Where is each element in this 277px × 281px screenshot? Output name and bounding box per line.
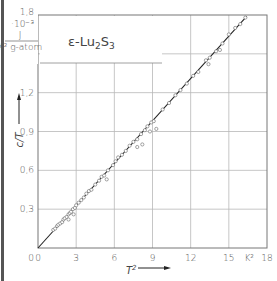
data-point [161, 108, 164, 111]
data-point [218, 48, 221, 51]
x-tick-label: 15 [223, 253, 234, 263]
data-point [132, 140, 135, 143]
data-point [239, 22, 242, 25]
chart-title: ε-Lu2S3 [68, 34, 115, 51]
data-point [85, 192, 88, 195]
y-axis-ticks: 00,30,60,91,2 [20, 88, 34, 263]
data-point [179, 88, 182, 91]
data-point [67, 218, 70, 221]
data-point [215, 50, 218, 53]
x-tick-label: 0 [35, 253, 41, 263]
x-tick-label: 12 [185, 253, 196, 263]
data-point [72, 213, 75, 216]
data-point [244, 16, 247, 19]
data-point [146, 125, 149, 128]
data-point [120, 153, 123, 156]
y-tick-label: 0,6 [20, 165, 34, 175]
data-point [105, 178, 108, 181]
data-point [80, 199, 83, 202]
data-point [208, 56, 211, 59]
x-axis-arrow-icon [164, 266, 171, 270]
data-point [141, 143, 144, 146]
data-point [111, 164, 114, 167]
data-point [174, 94, 177, 97]
data-point [128, 144, 131, 147]
x-tick-label: 9 [150, 253, 156, 263]
data-point [204, 59, 207, 62]
x-tick-label: K² [244, 253, 254, 263]
y-unit-numerator: J [19, 30, 22, 40]
data-point [155, 127, 158, 130]
data-point [136, 145, 139, 148]
x-tick-label: 18 [261, 253, 272, 263]
y-axis-label: c/T [14, 132, 25, 148]
data-point [139, 132, 142, 135]
data-point [77, 201, 80, 204]
data-point [148, 130, 151, 133]
data-point [227, 33, 230, 36]
data-point [94, 183, 97, 186]
data-point [136, 138, 139, 141]
data-point [185, 82, 188, 85]
x-tick-label: 6 [111, 253, 117, 263]
data-point [114, 160, 117, 163]
data-point [167, 101, 170, 104]
data-point [97, 179, 100, 182]
y-tick-label: 0,3 [20, 204, 34, 214]
y-unit-multiplier: ·10⁻³ [11, 19, 34, 29]
y-unit-denominator: K² g-atom [0, 42, 42, 52]
x-tick-label: 3 [73, 253, 79, 263]
data-point [124, 149, 127, 152]
data-point [197, 70, 200, 73]
x-axis-label: T2 [126, 264, 137, 276]
data-point [192, 74, 195, 77]
data-point [75, 204, 78, 207]
x-axis-ticks: 03691215K²18 [35, 253, 273, 263]
data-point [82, 196, 85, 199]
data-point [103, 174, 106, 177]
data-point [207, 63, 210, 66]
data-point [90, 188, 93, 191]
y-scale-top-label: 1,8 [20, 7, 34, 17]
chart-canvas: 03691215K²18 00,30,60,91,2 ε-Lu2S3 1,8 ·… [0, 0, 277, 281]
data-point [221, 42, 224, 45]
y-tick-label: 0 [28, 253, 34, 263]
data-point [117, 156, 120, 159]
data-point [152, 120, 155, 123]
data-point [143, 129, 146, 132]
y-tick-label: 1,2 [20, 88, 34, 98]
data-point [234, 26, 237, 29]
data-point [106, 169, 109, 172]
